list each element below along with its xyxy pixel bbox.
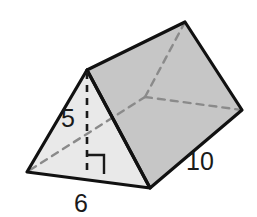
base-dimension-label: 6 xyxy=(74,189,88,217)
length-dimension-label: 10 xyxy=(186,147,214,175)
triangular-prism-diagram: 5 6 10 xyxy=(0,0,257,217)
prism-figure-container: 5 6 10 xyxy=(0,0,257,217)
height-dimension-label: 5 xyxy=(61,104,75,132)
